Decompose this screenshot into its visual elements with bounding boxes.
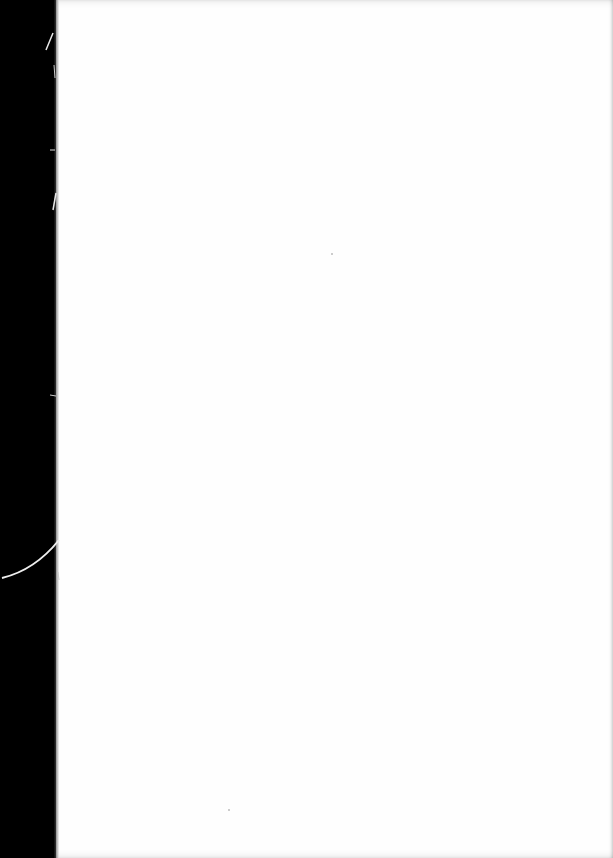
page-left-edge	[54, 0, 59, 858]
dust-speck	[228, 809, 230, 811]
scanned-document	[0, 0, 613, 858]
dust-speck	[331, 253, 333, 255]
blank-page	[56, 0, 613, 858]
